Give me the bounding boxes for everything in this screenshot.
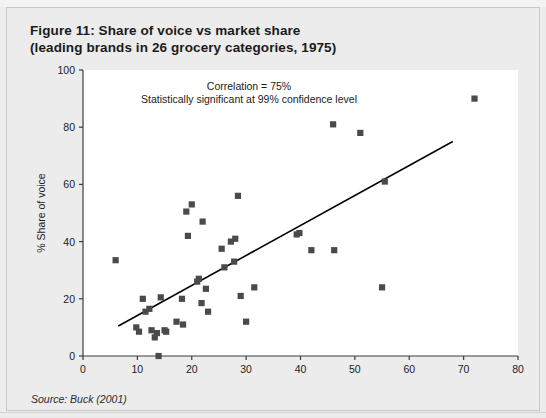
x-tick-label: 70	[458, 363, 470, 375]
chart-annotation: Correlation = 75%	[207, 80, 291, 92]
data-point-marker	[296, 230, 302, 236]
data-point-marker	[235, 193, 241, 199]
data-point-marker	[179, 296, 185, 302]
x-tick-label: 20	[186, 363, 198, 375]
data-point-marker	[379, 284, 385, 290]
data-point-marker	[238, 293, 244, 299]
y-tick-label: 20	[63, 293, 75, 305]
data-point-marker	[163, 329, 169, 335]
data-point-marker	[357, 130, 363, 136]
data-point-marker	[183, 208, 189, 214]
data-point-marker	[232, 236, 238, 242]
data-point-marker	[251, 284, 257, 290]
data-point-marker	[140, 296, 146, 302]
x-tick-label: 40	[295, 363, 307, 375]
figure-title-line-1: Figure 11: Share of voice vs market shar…	[30, 22, 500, 39]
figure-panel: Figure 11: Share of voice vs market shar…	[6, 7, 540, 411]
data-point-marker	[221, 264, 227, 270]
data-point-marker	[471, 96, 477, 102]
data-point-marker	[382, 178, 388, 184]
x-tick-label: 10	[132, 363, 144, 375]
data-point-marker	[231, 259, 237, 265]
x-tick-label: 50	[349, 363, 361, 375]
data-point-marker	[113, 257, 119, 263]
top-edge-bleed	[0, 0, 546, 7]
data-point-marker	[148, 327, 154, 333]
data-point-marker	[330, 121, 336, 127]
data-point-marker	[198, 300, 204, 306]
data-point-marker	[203, 286, 209, 292]
source-caption: Source: Buck (2001)	[31, 393, 127, 405]
figure-title-line-2: (leading brands in 26 grocery categories…	[30, 39, 500, 56]
data-point-marker	[158, 294, 164, 300]
y-tick-label: 40	[63, 236, 75, 248]
scatter-plot: 02040608010001020304050607080 Correlatio…	[31, 60, 526, 380]
y-tick-label: 0	[69, 350, 75, 362]
data-point-marker	[136, 329, 142, 335]
data-point-marker	[146, 306, 152, 312]
y-tick-label: 80	[63, 121, 75, 133]
chart-annotation: Statistically significant at 99% confide…	[141, 93, 357, 105]
data-point-marker	[331, 247, 337, 253]
y-tick-label: 100	[57, 64, 75, 76]
figure-container: Figure 11: Share of voice vs market shar…	[0, 0, 546, 418]
data-point-marker	[185, 233, 191, 239]
data-point-marker	[200, 218, 206, 224]
x-tick-label: 30	[240, 363, 252, 375]
y-axis-title: % Share of voice	[35, 173, 47, 253]
x-tick-label: 0	[80, 363, 86, 375]
data-point-marker	[154, 330, 160, 336]
data-point-marker	[180, 321, 186, 327]
x-tick-label: 80	[512, 363, 524, 375]
data-point-marker	[173, 319, 179, 325]
bottom-divider	[0, 412, 546, 413]
data-point-marker	[308, 247, 314, 253]
data-point-marker	[205, 309, 211, 315]
data-point-marker	[219, 246, 225, 252]
x-tick-label: 60	[403, 363, 415, 375]
data-point-marker	[189, 201, 195, 207]
y-tick-label: 60	[63, 178, 75, 190]
data-point-marker	[243, 319, 249, 325]
plot-svg: 02040608010001020304050607080 Correlatio…	[31, 60, 526, 380]
figure-title: Figure 11: Share of voice vs market shar…	[30, 22, 500, 56]
data-point-marker	[155, 353, 161, 359]
data-point-marker	[196, 276, 202, 282]
